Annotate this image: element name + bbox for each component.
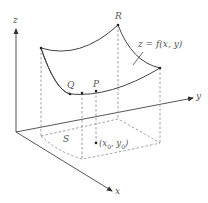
diagram-graphics xyxy=(0,0,208,203)
point-p xyxy=(95,90,98,93)
x-axis-label: x xyxy=(115,187,120,196)
equation-pointer xyxy=(133,52,143,65)
z-axis-label: z xyxy=(13,16,18,25)
surface-equation-label: z = f(x, y) xyxy=(138,40,182,49)
point-q xyxy=(69,93,72,96)
corner-point-right xyxy=(159,67,162,70)
y-axis-label: y xyxy=(196,92,201,101)
point-p-label: P xyxy=(93,80,99,89)
y-axis xyxy=(16,98,193,132)
region-s-label: S xyxy=(63,135,69,144)
corner-point-front xyxy=(81,92,84,95)
corner-point-left xyxy=(40,47,43,50)
point-r-label: R xyxy=(115,12,122,21)
surface-diagram: z y x R Q P z = f(x, y) S (x0, y0) xyxy=(0,0,208,203)
surface-edges xyxy=(41,25,160,94)
base-point xyxy=(95,142,98,145)
point-r xyxy=(117,24,120,27)
base-point-label: (x0, y0) xyxy=(99,139,128,150)
point-q-label: Q xyxy=(67,81,74,90)
